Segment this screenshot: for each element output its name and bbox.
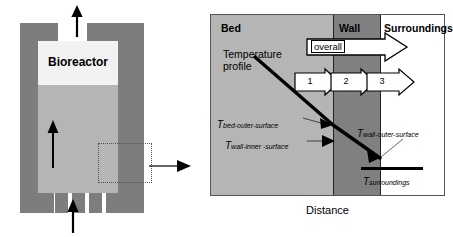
surroundings-temperature-line bbox=[361, 167, 423, 170]
distributor-leg bbox=[89, 193, 102, 213]
vessel-top-left-shoulder bbox=[20, 23, 58, 41]
detail-callout-box bbox=[98, 143, 152, 183]
up-arrow-internal-flow-icon bbox=[45, 119, 61, 169]
label-t-surroundings: Tsurroundings bbox=[363, 171, 410, 189]
leader-line-wall-outer-surface-icon bbox=[377, 137, 409, 161]
up-arrow-outlet-icon bbox=[68, 4, 86, 38]
bioreactor-schematic-panel: Bioreactor bbox=[0, 0, 210, 237]
bioreactor-title: Bioreactor bbox=[38, 56, 118, 68]
label-t-wall-inner-surface-subscript: wall-inner -surface bbox=[231, 143, 288, 150]
distributor-leg bbox=[106, 193, 118, 213]
vessel-top-right-shoulder bbox=[87, 23, 144, 41]
figure-root: Bioreactor bbox=[0, 0, 453, 237]
temperature-profile-panel: Bed Wall Surroundings overall 1 2 3 Temp… bbox=[210, 14, 445, 196]
distributor-leg bbox=[38, 193, 51, 213]
up-arrow-inlet-icon bbox=[64, 196, 82, 234]
label-t-surroundings-subscript: surroundings bbox=[369, 179, 409, 186]
label-t-wall-inner-surface: Twall-inner -surface bbox=[225, 135, 288, 153]
leader-arrow-bed-outer-surface-icon bbox=[303, 115, 339, 131]
label-t-bed-outer-surface: Tbed-outer-surface bbox=[217, 114, 278, 132]
label-t-bed-outer-surface-subscript: bed-outer-surface bbox=[223, 122, 278, 129]
leader-arrow-wall-inner-surface-icon bbox=[307, 133, 339, 149]
x-axis-label: Distance bbox=[210, 204, 445, 216]
right-arrow-callout-icon bbox=[149, 158, 197, 174]
